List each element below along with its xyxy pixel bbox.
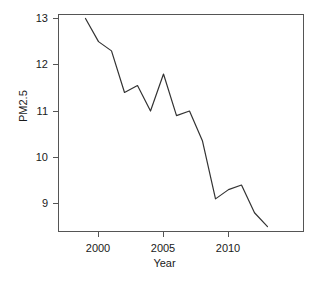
y-axis-ticks [53,19,58,204]
y-tick-label-12: 12 [30,59,48,70]
y-axis-title: PM2.5 [18,90,29,122]
y-tick-label-11: 11 [30,106,48,117]
plot-frame [59,15,304,232]
pm25-series-line [86,19,268,227]
x-tick-label-2010: 2010 [216,243,240,254]
x-tick-label-2000: 2000 [86,243,110,254]
x-axis-title: Year [0,258,329,269]
pm25-line-chart: 13 12 11 10 9 2000 2005 2010 PM2.5 Year [0,0,329,288]
y-tick-label-9: 9 [30,198,48,209]
y-tick-label-13: 13 [30,13,48,24]
x-tick-label-2005: 2005 [151,243,175,254]
y-tick-label-10: 10 [30,152,48,163]
